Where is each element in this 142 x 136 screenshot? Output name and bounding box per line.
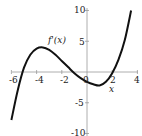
y-tick-label: 5 — [79, 37, 85, 47]
y-tick-label: -5 — [75, 98, 84, 108]
x-tick-label: -6 — [9, 75, 18, 85]
x-tick-label: -4 — [35, 75, 44, 85]
derivative-curve — [11, 11, 131, 120]
y-tick-label: -10 — [71, 128, 86, 136]
x-tick-label: 0 — [83, 75, 89, 85]
x-tick-label: -2 — [60, 75, 69, 85]
x-tick-label: 4 — [134, 75, 140, 85]
chart: -6 -4 -2 0 2 4 10 5 -5 -10 f'(x) x — [0, 0, 142, 136]
x-axis-label: x — [109, 84, 114, 94]
curve-label: f'(x) — [47, 35, 66, 45]
y-tick-label: 10 — [74, 5, 86, 15]
